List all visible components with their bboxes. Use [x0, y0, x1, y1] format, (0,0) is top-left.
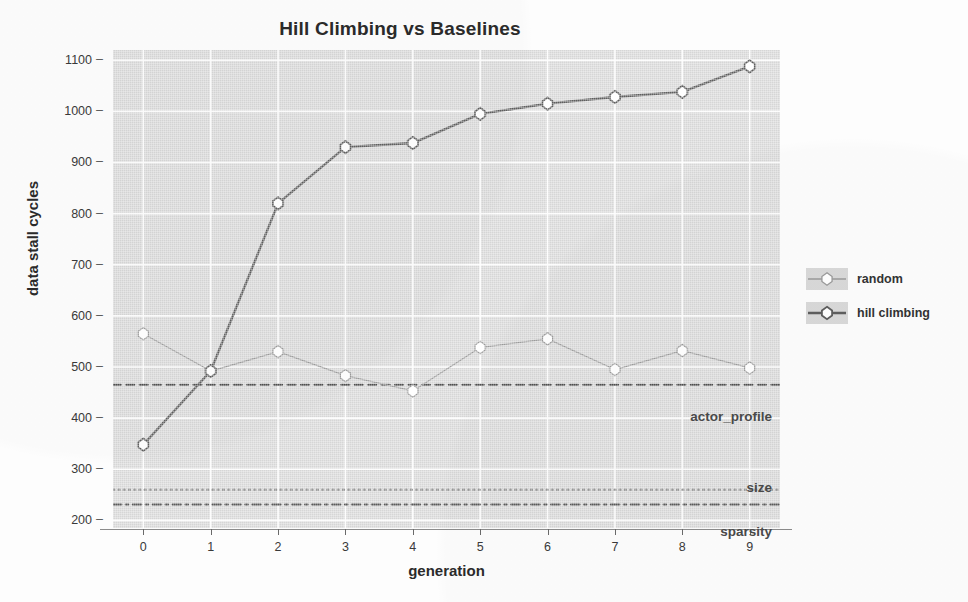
data-point — [610, 91, 620, 103]
annotation-actor_profile: actor_profile — [0, 409, 772, 424]
chart-legend: randomhill climbing — [806, 262, 956, 330]
y-tick-dash: – — [96, 154, 103, 168]
data-point — [206, 365, 216, 377]
data-point — [475, 108, 485, 120]
y-tick-label: 300 — [30, 462, 92, 476]
y-tick-dash: – — [96, 461, 103, 475]
data-point — [745, 362, 755, 374]
y-tick-dash: – — [96, 257, 103, 271]
y-tick-label: 1000 — [30, 104, 92, 118]
data-point — [340, 141, 350, 153]
data-point — [408, 137, 418, 149]
line-hill-climbing — [143, 66, 749, 444]
data-point — [542, 97, 552, 109]
data-point — [610, 363, 620, 375]
data-point — [408, 385, 418, 397]
y-tick-label: 600 — [30, 309, 92, 323]
data-point — [138, 438, 148, 450]
x-tick-label: 8 — [667, 540, 697, 554]
data-point — [138, 328, 148, 340]
x-tick-label: 9 — [735, 540, 765, 554]
x-tick-label: 5 — [465, 540, 495, 554]
x-tick-label: 2 — [263, 540, 293, 554]
legend-item-hill-climbing[interactable]: hill climbing — [806, 296, 956, 330]
x-tick-label: 0 — [128, 540, 158, 554]
data-point — [677, 344, 687, 356]
data-point — [340, 369, 350, 381]
legend-swatch-icon — [806, 302, 848, 324]
x-tick-label: 4 — [398, 540, 428, 554]
x-tick-label: 6 — [533, 540, 563, 554]
annotation-size: size — [0, 480, 772, 495]
chart-title: Hill Climbing vs Baselines — [0, 18, 800, 40]
x-tick-label: 3 — [330, 540, 360, 554]
data-point — [542, 333, 552, 345]
data-point — [475, 341, 485, 353]
y-tick-dash: – — [96, 52, 103, 66]
data-point — [273, 197, 283, 209]
legend-label: hill climbing — [857, 306, 930, 320]
y-tick-dash: – — [96, 359, 103, 373]
y-axis-title: data stall cycles — [24, 149, 41, 329]
y-tick-label: 1100 — [30, 53, 92, 67]
y-tick-label: 700 — [30, 258, 92, 272]
legend-item-random[interactable]: random — [806, 262, 956, 296]
y-tick-dash: – — [96, 206, 103, 220]
y-tick-dash: – — [96, 103, 103, 117]
series-markers — [138, 60, 755, 451]
vertical-gridlines — [143, 50, 749, 528]
series-lines — [143, 66, 749, 444]
y-tick-label: 500 — [30, 360, 92, 374]
data-point — [745, 60, 755, 72]
data-point — [273, 345, 283, 357]
y-tick-dash: – — [96, 308, 103, 322]
plot-canvas — [113, 50, 780, 528]
plot-area — [113, 50, 780, 528]
x-tick-label: 1 — [196, 540, 226, 554]
data-point — [677, 86, 687, 98]
y-tick-label: 800 — [30, 207, 92, 221]
y-tick-label: 900 — [30, 155, 92, 169]
legend-swatch-icon — [806, 268, 848, 290]
chart-figure: Hill Climbing vs Baselines data stall cy… — [0, 0, 968, 602]
line-random — [143, 334, 749, 391]
x-tick-label: 7 — [600, 540, 630, 554]
annotation-sparsity: sparsity — [0, 524, 772, 539]
legend-label: random — [857, 272, 903, 286]
x-axis-title: generation — [113, 562, 780, 579]
